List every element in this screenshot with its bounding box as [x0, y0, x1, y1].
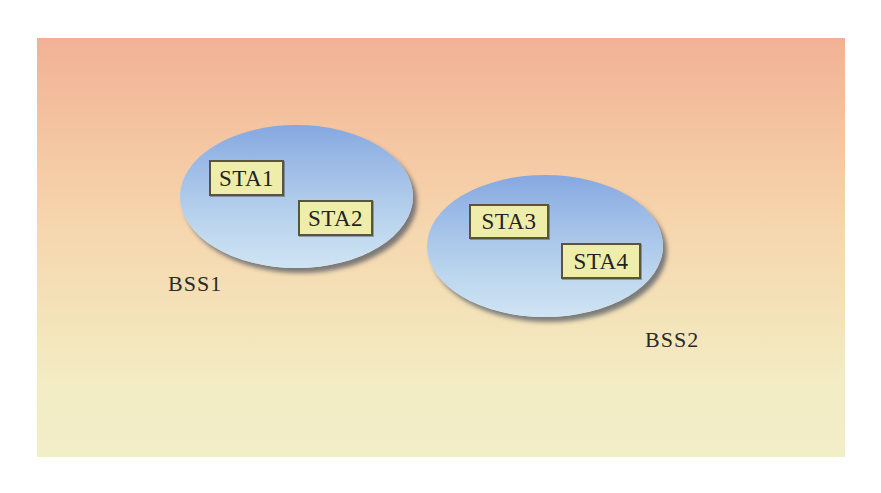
bss2-label: BSS2: [645, 327, 699, 353]
station-box-sta1: STA1: [209, 160, 284, 196]
station-box-sta2: STA2: [298, 200, 373, 236]
bss1-ellipse: [180, 125, 413, 268]
station-box-sta4: STA4: [561, 243, 641, 279]
station-label: STA3: [481, 210, 536, 233]
station-label: STA2: [308, 207, 363, 230]
bss1-label: BSS1: [168, 271, 222, 297]
station-label: STA4: [573, 250, 628, 273]
station-label: STA1: [219, 167, 274, 190]
station-box-sta3: STA3: [469, 204, 549, 239]
